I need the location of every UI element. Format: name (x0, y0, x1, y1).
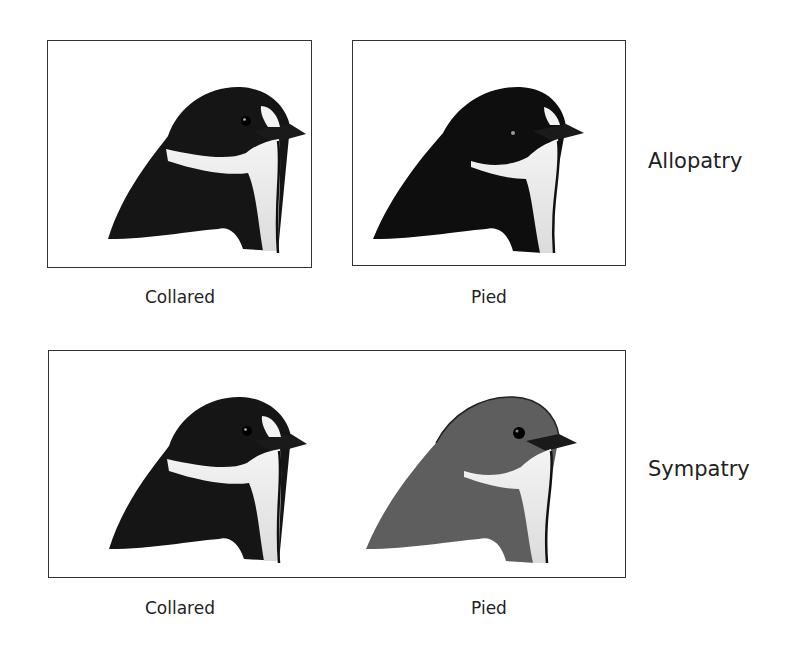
pied-flycatcher-illustration (348, 61, 593, 261)
pied-flycatcher-illustration (341, 371, 586, 571)
collared-flycatcher-illustration (68, 61, 313, 261)
row-label-allopatry: Allopatry (648, 149, 742, 173)
panel-sympatry (48, 350, 626, 578)
collared-flycatcher-illustration (69, 371, 314, 571)
panel-allopatry-pied (352, 40, 626, 266)
row-label-sympatry: Sympatry (648, 457, 750, 481)
caption-allopatry-collared: Collared (100, 287, 260, 307)
caption-sympatry-collared: Collared (100, 598, 260, 618)
caption-sympatry-pied: Pied (409, 598, 569, 618)
panel-allopatry-collared (47, 40, 312, 268)
caption-allopatry-pied: Pied (409, 287, 569, 307)
